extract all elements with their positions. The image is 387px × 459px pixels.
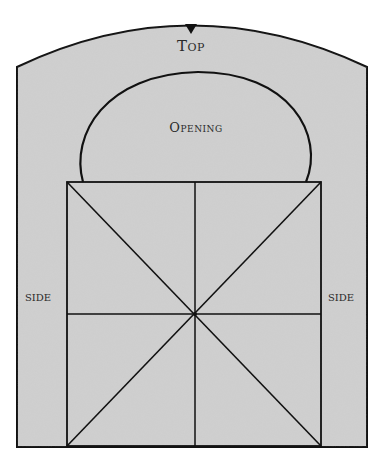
center-point [193, 312, 197, 316]
label-side-left: SIDE [25, 292, 51, 303]
label-top: Top [177, 37, 205, 55]
template-diagram [0, 0, 387, 459]
label-side-right: SIDE [328, 292, 354, 303]
label-opening: Opening [169, 120, 222, 135]
